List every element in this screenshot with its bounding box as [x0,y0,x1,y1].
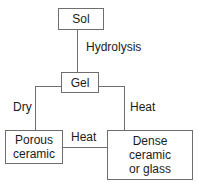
node-dense-ceramic: Dense ceramic or glass [107,130,193,180]
edge-label-dry: Dry [11,101,34,114]
node-porous-ceramic-label: Porous ceramic [10,133,58,161]
edge-label-heat-right: Heat [128,101,157,114]
node-sol: Sol [58,8,104,30]
node-sol-label: Sol [69,12,92,26]
edge-gel-right-horizontal [99,86,125,87]
edge-gel-to-dense-ceramic [124,86,125,131]
edge-label-heat-bottom: Heat [69,131,98,144]
node-porous-ceramic: Porous ceramic [5,130,63,164]
node-gel-label: Gel [68,76,93,90]
edge-gel-left-horizontal [35,86,61,87]
node-gel: Gel [61,72,99,93]
edge-sol-to-gel [77,30,78,72]
edge-gel-to-porous-ceramic [35,86,36,131]
node-dense-ceramic-label: Dense ceramic or glass [126,134,174,176]
sol-gel-process-diagram: Sol Gel Porous ceramic Dense ceramic or … [0,0,198,188]
edge-porous-ceramic-to-dense-ceramic [63,147,107,148]
edge-label-hydrolysis: Hydrolysis [84,41,143,54]
